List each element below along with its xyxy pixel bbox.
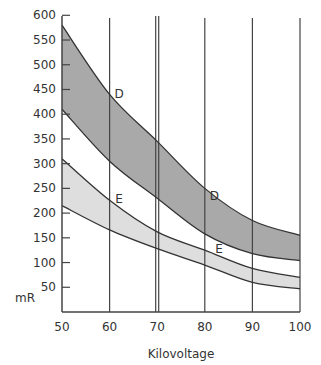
y-tick-label: 250 <box>33 181 56 195</box>
x-tick-label: 70 <box>150 320 165 334</box>
y-tick-label: 450 <box>33 82 56 96</box>
x-tick-label: 100 <box>289 320 312 334</box>
y-tick-label: 150 <box>33 231 56 245</box>
band-label-e: E <box>215 242 223 256</box>
y-tick-label: 200 <box>33 206 56 220</box>
x-tick-label: 50 <box>54 320 69 334</box>
band-label-d: D <box>114 87 123 101</box>
y-tick-label: 550 <box>33 33 56 47</box>
y-tick-label: 300 <box>33 157 56 171</box>
x-tick-label: 90 <box>245 320 260 334</box>
x-tick-label: 60 <box>102 320 117 334</box>
y-tick-label: 350 <box>33 132 56 146</box>
band-label-d: D <box>210 189 219 203</box>
y-axis-title: mR <box>15 291 35 305</box>
y-tick-label: 600 <box>33 8 56 22</box>
y-tick-label: 50 <box>41 280 56 294</box>
band-label-e: E <box>115 192 123 206</box>
y-tick-label: 500 <box>33 58 56 72</box>
kilovoltage-mr-chart: 50100150200250300350400450500550600 5060… <box>0 0 321 365</box>
bands <box>62 25 300 289</box>
x-axis-title: Kilovoltage <box>148 347 215 361</box>
axes <box>62 16 300 312</box>
y-tick-label: 100 <box>33 256 56 270</box>
x-axis-ticks: 5060708090100 <box>54 320 311 334</box>
y-tick-label: 400 <box>33 107 56 121</box>
x-tick-label: 80 <box>197 320 212 334</box>
